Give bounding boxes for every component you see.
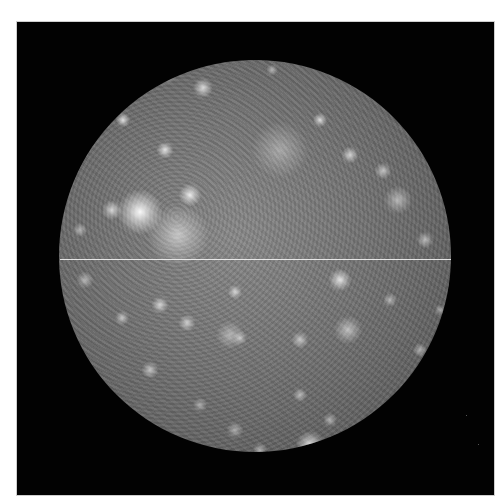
bright-crater-spot [328,310,368,350]
bright-crater-spot [108,180,172,244]
bright-crater-spot [413,228,437,252]
bright-crater-spot [378,180,418,220]
bright-crater-spot [250,440,270,452]
bright-crater-spot [388,398,412,422]
star-speck [478,444,479,445]
bright-crater-spot [189,74,217,102]
bright-crater-spot [264,62,280,78]
bright-crater-spot [174,179,206,211]
bright-crater-spot [148,293,172,317]
bright-crater-spot [240,110,320,190]
bright-crater-spot [290,385,310,405]
bright-crater-spot [320,410,340,430]
bright-crater-spot [225,282,245,302]
bright-crater-spot [150,60,182,89]
bright-crater-spot [210,315,250,355]
bright-crater-spot [432,302,448,318]
bright-crater-spot [230,328,250,348]
bright-crater-spot [223,418,247,442]
bright-crater-spot [70,220,90,240]
bright-crater-spot [371,159,395,183]
bright-crater-spot [310,110,330,130]
bright-crater-spot [410,340,430,360]
bright-crater-spot [134,191,222,279]
bright-crater-spot [324,264,356,296]
bright-crater-spot [175,311,199,335]
bright-crater-spot [138,358,162,382]
bright-crater-spot [113,110,133,130]
callisto-moon-disk [59,60,451,452]
scan-line-artifact [60,259,451,260]
bright-crater-spot [190,395,210,415]
star-speck [466,415,467,416]
bright-crater-spot [112,308,132,328]
bright-crater-spot [153,138,177,162]
bright-crater-spot [290,425,330,452]
bright-crater-spot [288,328,312,352]
bright-crater-spot [380,290,400,310]
bright-crater-spot [73,268,97,292]
bright-crater-spot [338,143,362,167]
bright-crater-spot [98,196,126,224]
